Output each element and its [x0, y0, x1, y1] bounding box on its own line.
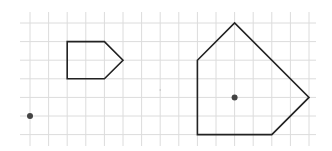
center-point-left: [27, 113, 33, 119]
grid-diagram: [0, 0, 332, 151]
center-point-right: [232, 94, 238, 100]
grid: [20, 12, 316, 146]
faint-mark: [159, 89, 161, 91]
points: [27, 89, 238, 119]
